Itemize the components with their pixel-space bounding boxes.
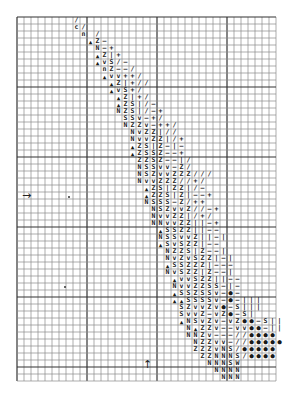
stitch-symbol: ▲ — [94, 59, 101, 66]
stitch-symbol: ▲ — [129, 150, 136, 157]
stitch-symbol: n — [80, 31, 87, 38]
stitch-symbol: S — [178, 311, 185, 318]
stitch-symbol: ▲ — [143, 185, 150, 192]
stitch-symbol: N — [185, 332, 192, 339]
stitch-symbol: N — [157, 220, 164, 227]
stitch-symbol: N — [213, 367, 220, 374]
stitch-symbol: ▲ — [115, 94, 122, 101]
stitch-symbol: ● — [255, 353, 262, 360]
stitch-symbol: ● — [276, 339, 283, 346]
stitch-symbol: ▲ — [94, 52, 101, 59]
stitch-symbol: ● — [248, 353, 255, 360]
stitch-symbol: | — [255, 304, 262, 311]
stitch-symbol: c — [73, 24, 80, 31]
stitch-symbol: / — [206, 171, 213, 178]
ink-speck — [64, 286, 66, 288]
stitch-symbol: / — [241, 353, 248, 360]
center-arrow-left-icon: → — [22, 189, 31, 202]
stitch-symbol: ▲ — [171, 290, 178, 297]
stitch-symbol: N — [150, 220, 157, 227]
stitch-symbol: S — [178, 290, 185, 297]
stitch-symbol: N — [122, 122, 129, 129]
stitch-symbol: S — [192, 318, 199, 325]
stitch-symbol: ● — [269, 353, 276, 360]
stitch-symbol: v — [171, 269, 178, 276]
cross-stitch-chart: /c/n/▲Z–N–+▲Z|+▲vS/–nZ––/▲vv++/▲Z|+//▲vS… — [0, 0, 292, 403]
stitch-symbol: v — [115, 87, 122, 94]
stitch-symbol: | — [220, 234, 227, 241]
stitch-symbol: N — [206, 360, 213, 367]
stitch-symbol: N — [115, 108, 122, 115]
stitch-symbol: ▲ — [171, 297, 178, 304]
stitch-symbol: + — [206, 192, 213, 199]
stitch-symbol: Z — [192, 346, 199, 353]
stitch-symbol: N — [227, 374, 234, 381]
ink-speck — [68, 196, 70, 198]
stitch-symbol: ▲ — [87, 38, 94, 45]
stitch-symbol: N — [220, 374, 227, 381]
stitch-symbol: n — [101, 66, 108, 73]
stitch-symbol: Z — [199, 353, 206, 360]
stitch-symbol: N — [164, 269, 171, 276]
stitch-symbol: N — [171, 283, 178, 290]
stitch-symbol: N — [143, 199, 150, 206]
center-arrow-bottom-icon: ↑ — [143, 358, 152, 371]
stitch-symbol: / — [143, 80, 150, 87]
stitch-symbol: + — [213, 206, 220, 213]
stitch-symbol: N — [129, 136, 136, 143]
stitch-symbol: N — [94, 45, 101, 52]
stitch-symbol: ▲ — [108, 80, 115, 87]
stitch-symbol: N — [157, 234, 164, 241]
stitch-symbol: v — [143, 178, 150, 185]
stitch-symbol: v — [108, 73, 115, 80]
stitch-symbol: N — [164, 255, 171, 262]
stitch-symbol: ▲ — [178, 318, 185, 325]
stitch-symbol: ▲ — [129, 143, 136, 150]
stitch-symbol: ● — [262, 353, 269, 360]
stitch-symbol: N — [234, 374, 241, 381]
stitch-symbol: | — [276, 325, 283, 332]
stitch-symbol: ▲ — [101, 73, 108, 80]
stitch-symbol: ▲ — [108, 87, 115, 94]
stitch-symbol: ▲ — [157, 241, 164, 248]
stitch-symbol: N — [136, 178, 143, 185]
